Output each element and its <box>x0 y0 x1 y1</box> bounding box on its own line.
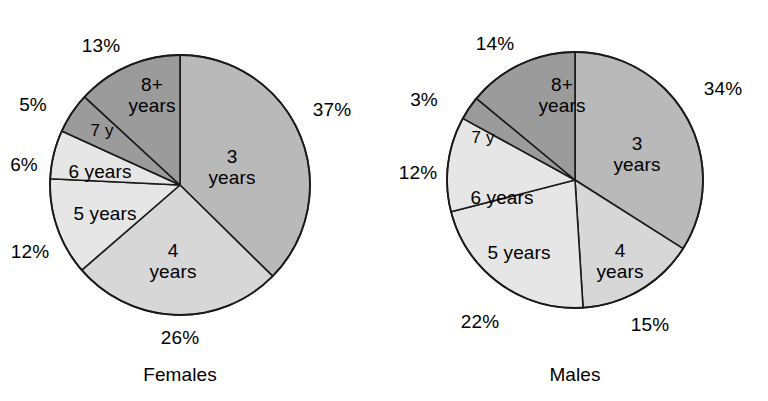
slice-percent-label: 3% <box>410 90 438 111</box>
slice-category-label: 6 years <box>470 188 533 209</box>
slice-category-label: 8+years <box>129 75 176 116</box>
slice-category-label: 4years <box>150 241 197 282</box>
slice-percent-label: 26% <box>161 328 199 349</box>
slice-percent-label: 13% <box>82 36 120 57</box>
slice-percent-label: 34% <box>704 79 742 100</box>
slice-category-label: 8+years <box>539 75 586 116</box>
slice-percent-label: 14% <box>476 34 514 55</box>
slice-category-label: 4years <box>597 241 644 282</box>
slice-percent-label: 37% <box>313 100 351 121</box>
slice-category-label: 3years <box>614 134 661 175</box>
slice-category-label: 3years <box>209 147 256 188</box>
slice-category-label: 7 y <box>472 129 495 147</box>
slice-percent-label: 12% <box>11 242 49 263</box>
slice-category-label: 5 years <box>73 204 136 225</box>
slice-percent-label: 6% <box>10 155 38 176</box>
slice-percent-label: 5% <box>19 95 47 116</box>
slice-category-label: 7 y <box>91 122 114 140</box>
slice-percent-label: 15% <box>631 315 669 336</box>
figure-canvas: 37%26%12%6%5%13%3years4years5 years6 yea… <box>0 0 768 401</box>
slice-percent-label: 22% <box>461 312 499 333</box>
pie-charts-svg <box>0 0 768 401</box>
chart-caption: Males <box>549 365 600 386</box>
slice-category-label: 5 years <box>487 243 550 264</box>
slice-percent-label: 12% <box>399 163 437 184</box>
slice-category-label: 6 years <box>68 162 131 183</box>
chart-caption: Females <box>143 365 217 386</box>
